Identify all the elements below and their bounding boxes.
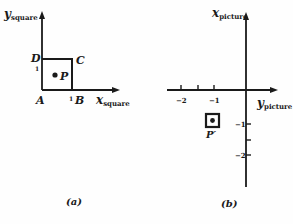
corner-a-label: A: [35, 94, 45, 107]
arrow-up-icon: [39, 11, 45, 19]
tick-label-neg2: −2: [176, 96, 187, 105]
tick-label-neg1-v: −1: [235, 120, 246, 129]
point-p: [52, 72, 57, 77]
figure-a: ysquare xsquare D 1 C A 1 B P (a): [3, 7, 130, 207]
arrow-right-icon: [270, 87, 278, 93]
figure: ysquare xsquare D 1 C A 1 B P (a) −2 −1 …: [0, 0, 293, 224]
y-axis-label: ysquare: [3, 7, 38, 22]
tick-label-neg1: −1: [209, 96, 220, 105]
caption-a: (a): [66, 196, 82, 207]
x-axis-label: xsquare: [95, 93, 130, 108]
arrow-right-icon: [112, 87, 120, 93]
x-picture-label: xpicture: [211, 6, 248, 21]
caption-b: (b): [221, 198, 238, 209]
tick-y-label: 1: [35, 65, 39, 72]
corner-b-label: B: [74, 94, 84, 107]
corner-c-label: C: [76, 54, 85, 67]
figure-b: −2 −1 −1 −2 xpicture ypicture P′ (b): [167, 6, 293, 209]
point-p-label: P: [59, 70, 69, 83]
tick-label-neg2-v: −2: [235, 151, 246, 160]
y-picture-label: ypicture: [256, 96, 293, 111]
point-p-prime: [210, 118, 215, 123]
corner-d-label: D: [30, 52, 41, 65]
point-p-prime-label: P′: [205, 129, 217, 140]
tick-x-label: 1: [69, 95, 73, 102]
